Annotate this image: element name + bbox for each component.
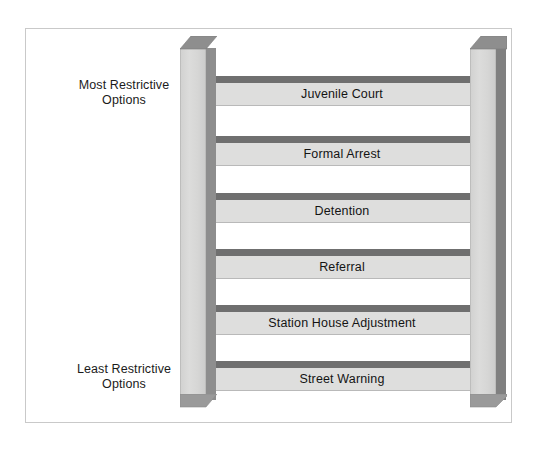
rail-right-bottom-bevel — [470, 394, 507, 409]
rung-face: Station House Adjustment — [206, 312, 478, 335]
rung-label: Station House Adjustment — [268, 316, 415, 330]
rung-face: Juvenile Court — [206, 83, 478, 106]
rung-label: Detention — [315, 204, 370, 218]
rung-label: Street Warning — [299, 372, 384, 386]
rung-top-edge — [206, 136, 478, 143]
rail-left-top-bevel — [180, 36, 217, 50]
rung-top-edge — [206, 193, 478, 200]
rail-right-side-edge — [495, 48, 506, 400]
rail-left-face — [180, 48, 206, 406]
ladder-rail-left — [178, 36, 224, 418]
ladder-rung: Detention — [206, 193, 478, 223]
rung-face: Street Warning — [206, 368, 478, 391]
ladder-rung: Juvenile Court — [206, 76, 478, 106]
rung-face: Formal Arrest — [206, 143, 478, 166]
rail-right-top-bevel — [470, 36, 507, 50]
rail-right-face — [470, 48, 496, 406]
rung-label: Juvenile Court — [301, 87, 383, 101]
rung-label: Referral — [319, 260, 365, 274]
rung-top-edge — [206, 249, 478, 256]
figure-root: Most Restrictive Options Least Restricti… — [0, 0, 535, 454]
rung-top-edge — [206, 361, 478, 368]
rung-top-edge — [206, 305, 478, 312]
rail-left-side-edge — [205, 48, 216, 400]
ladder-rungs: Juvenile Court Formal Arrest Detention R… — [178, 36, 508, 418]
ladder-diagram: Juvenile Court Formal Arrest Detention R… — [178, 36, 508, 418]
ladder-rung: Street Warning — [206, 361, 478, 391]
ladder-rung: Referral — [206, 249, 478, 279]
rung-face: Detention — [206, 200, 478, 223]
rung-top-edge — [206, 76, 478, 83]
ladder-rung: Formal Arrest — [206, 136, 478, 166]
rung-face: Referral — [206, 256, 478, 279]
rung-label: Formal Arrest — [304, 147, 381, 161]
ladder-rung: Station House Adjustment — [206, 305, 478, 335]
ladder-rail-right — [462, 36, 508, 418]
rail-left-bottom-bevel — [180, 394, 217, 409]
